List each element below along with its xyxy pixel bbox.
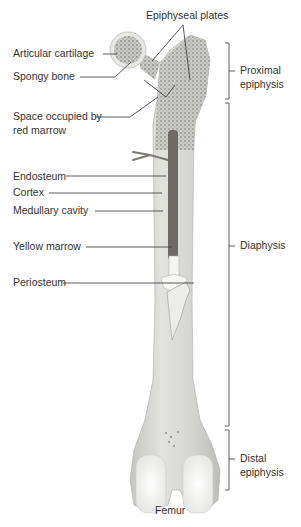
medullary-cavity: [168, 130, 178, 260]
region-diaphysis: Diaphysis: [240, 239, 286, 252]
label-cortex: Cortex: [13, 186, 44, 199]
label-yellow-marrow: Yellow marrow: [13, 240, 81, 253]
yellow-marrow: [169, 256, 179, 276]
label-articular-cartilage: Articular cartilage: [13, 47, 94, 60]
lateral-condyle: [183, 455, 213, 513]
region-distal-line1: Distal: [240, 452, 266, 465]
region-brackets: [225, 43, 235, 490]
diagram-title: Femur: [155, 504, 185, 517]
region-distal-line2: epiphysis: [240, 466, 284, 479]
label-periosteum: Periosteum: [13, 276, 66, 289]
region-proximal-line1: Proximal: [240, 64, 281, 77]
label-red-marrow-line1: Space occupied by: [13, 110, 102, 123]
femur-bone: [110, 32, 220, 513]
region-proximal-line2: epiphysis: [240, 78, 284, 91]
label-red-marrow-line2: red marrow: [13, 124, 66, 137]
label-medullary-cavity: Medullary cavity: [13, 204, 88, 217]
label-epiphyseal-plates: Epiphyseal plates: [146, 9, 228, 22]
label-endosteum: Endosteum: [13, 170, 66, 183]
label-spongy-bone: Spongy bone: [13, 70, 75, 83]
